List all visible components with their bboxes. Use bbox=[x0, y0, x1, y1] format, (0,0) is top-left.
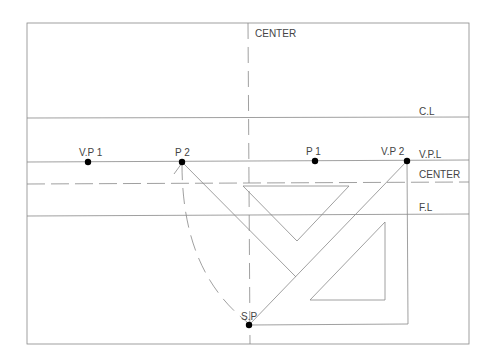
label-cl: C.L bbox=[419, 106, 435, 117]
set-square-lower bbox=[310, 222, 385, 300]
label-sp: S.P bbox=[241, 311, 257, 322]
vanishing-point-line bbox=[27, 160, 469, 162]
center-line-cl bbox=[27, 117, 469, 118]
label-p2: P 2 bbox=[175, 147, 190, 158]
label-vp1: V.P 1 bbox=[79, 147, 103, 158]
perspective-diagram: CENTER C.L V.P.L CENTER F.L V.P 1 P 2 P … bbox=[0, 0, 495, 363]
label-vpl: V.P.L bbox=[419, 149, 442, 160]
label-center-top: CENTER bbox=[255, 28, 296, 39]
point-vp1 bbox=[85, 159, 91, 165]
center-vertical-dashed bbox=[248, 23, 250, 344]
point-p2 bbox=[179, 159, 185, 165]
arc-p2-to-sp bbox=[182, 164, 247, 322]
label-fl: F.L bbox=[419, 202, 433, 213]
label-vp2: V.P 2 bbox=[381, 146, 405, 157]
point-p1 bbox=[312, 158, 318, 164]
point-vp2 bbox=[404, 158, 410, 164]
point-sp bbox=[246, 322, 252, 328]
center-horizontal-dashed bbox=[27, 182, 469, 184]
floor-line bbox=[27, 214, 469, 216]
label-center-right: CENTER bbox=[419, 169, 460, 180]
label-p1: P 1 bbox=[306, 146, 321, 157]
set-square-upper bbox=[243, 186, 349, 241]
